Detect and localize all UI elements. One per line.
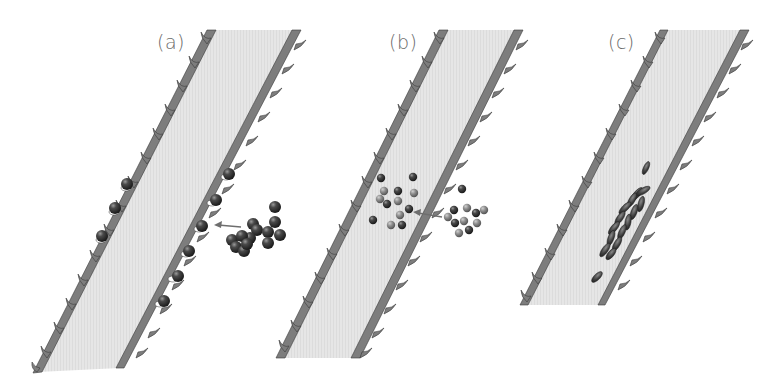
- panel-b: [276, 30, 528, 358]
- panel-a: [32, 30, 306, 373]
- panel-label-b: (b): [389, 31, 417, 53]
- particle-cluster: [226, 201, 286, 257]
- panel-label-c: (c): [608, 31, 635, 53]
- arrow-a: [214, 221, 241, 228]
- panel-c: [520, 30, 753, 305]
- dispersed-particles-outside: [444, 185, 488, 237]
- figure: (a) (b) (c): [0, 0, 775, 389]
- panel-label-a: (a): [157, 31, 185, 53]
- vessel-lumen: [38, 30, 297, 372]
- diagram-canvas: [0, 0, 775, 389]
